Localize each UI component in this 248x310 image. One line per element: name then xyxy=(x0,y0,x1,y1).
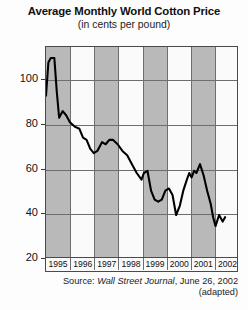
x-axis-year-1996: 1996 xyxy=(70,258,94,270)
x-axis-year-1997: 1997 xyxy=(94,258,118,270)
y-tick-label-80: 80 xyxy=(6,117,38,129)
y-tick-label-100: 100 xyxy=(6,72,38,84)
source-adapted: (adapted) xyxy=(0,287,238,298)
y-tick-label-20: 20 xyxy=(6,251,38,263)
cotton-price-figure: Average Monthly World Cotton Price (in c… xyxy=(0,0,248,310)
y-tick-label-40: 40 xyxy=(6,206,38,218)
x-axis-year-2002: 2002 xyxy=(215,258,239,270)
source-note: Source: Wall Street Journal, June 26, 20… xyxy=(0,276,238,298)
price-line-path xyxy=(46,58,225,226)
price-line-series xyxy=(46,47,237,257)
x-axis-year-1995: 1995 xyxy=(46,258,70,270)
source-line-main: Source: Wall Street Journal, June 26, 20… xyxy=(0,276,238,287)
x-axis-year-2001: 2001 xyxy=(191,258,215,270)
y-tick-label-60: 60 xyxy=(6,162,38,174)
title-block: Average Monthly World Cotton Price (in c… xyxy=(0,4,248,31)
x-axis-year-1998: 1998 xyxy=(118,258,142,270)
source-suffix: , June 26, 2002 xyxy=(175,276,238,286)
plot-area xyxy=(45,46,238,258)
source-publication: Wall Street Journal xyxy=(97,276,174,286)
source-prefix: Source: xyxy=(63,276,95,286)
x-axis-year-2000: 2000 xyxy=(167,258,191,270)
chart-subtitle: (in cents per pound) xyxy=(0,18,248,31)
x-axis-year-strip: 19951996199719981999200020012002 xyxy=(45,258,238,272)
page-title: Average Monthly World Cotton Price xyxy=(0,4,248,18)
x-axis-year-1999: 1999 xyxy=(143,258,167,270)
